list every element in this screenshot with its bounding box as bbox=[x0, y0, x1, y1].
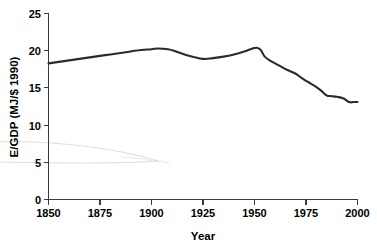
y-tick-label-0: 0 bbox=[35, 194, 41, 206]
x-tick-label-1900: 1900 bbox=[139, 207, 163, 219]
x-axis-title: Year bbox=[191, 230, 216, 242]
faint-lens-artifact bbox=[0, 142, 170, 163]
data-series-line bbox=[49, 48, 358, 103]
x-tick-label-1850: 1850 bbox=[36, 207, 60, 219]
y-tick-label-20: 20 bbox=[29, 45, 41, 57]
y-tick-label-25: 25 bbox=[29, 8, 41, 20]
y-tick-label-15: 15 bbox=[29, 82, 41, 94]
x-tick-label-1950: 1950 bbox=[242, 207, 266, 219]
chart-page: 25 20 15 10 5 0 1850 1875 1900 1925 1950… bbox=[0, 0, 377, 246]
x-tick-label-1975: 1975 bbox=[294, 207, 318, 219]
x-tick-label-1925: 1925 bbox=[191, 207, 215, 219]
y-axis-title: E/GDP (MJ/$ 1990) bbox=[8, 56, 20, 157]
y-axis-ticks bbox=[44, 14, 49, 200]
chart-canvas: 25 20 15 10 5 0 1850 1875 1900 1925 1950… bbox=[0, 0, 377, 246]
line-chart: 25 20 15 10 5 0 1850 1875 1900 1925 1950… bbox=[0, 0, 377, 246]
x-tick-label-1875: 1875 bbox=[88, 207, 112, 219]
y-tick-label-10: 10 bbox=[29, 120, 41, 132]
x-tick-label-2000: 2000 bbox=[345, 207, 369, 219]
y-tick-label-5: 5 bbox=[35, 157, 41, 169]
x-axis-ticks bbox=[49, 200, 358, 206]
